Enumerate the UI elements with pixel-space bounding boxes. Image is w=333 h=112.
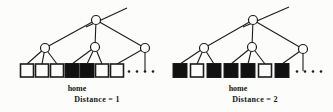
tree-edge [253,20,303,49]
leaf-square-empty [96,64,109,77]
leaf-square-replica [80,64,94,78]
leaf-square-empty [191,64,204,77]
leaf-square-empty [36,64,49,77]
distance-2-tree-shapes [173,7,322,78]
distance-1-tree-shapes [21,8,155,78]
leaf-square-replica [65,64,79,78]
tree-edge [45,20,96,48]
distance-2-tree: home Distance = 2 [173,7,322,104]
tree-edge [96,20,145,48]
ellipsis-dot [320,70,323,73]
root-node-circle [92,16,101,25]
tree-diagram-canvas: home Distance = 1 home Distance = 2 [0,0,333,112]
distance-1-tree: home Distance = 1 [21,8,155,104]
leaf-square-replica [241,64,255,78]
leaf-square-replica [173,64,187,78]
leaf-square-replica [207,64,221,78]
home-label: home [229,84,248,93]
internal-node-circle [248,43,257,52]
ellipsis-dot [296,70,299,73]
ellipsis-dot [144,70,147,73]
leaf-square-replica [224,64,238,78]
leaf-square-empty [111,64,124,77]
ellipsis-dot [152,70,155,73]
leaf-square-replica [275,64,289,78]
internal-node-circle [91,43,100,52]
internal-node-circle [200,44,209,53]
internal-node-circle [299,45,308,54]
leaf-square-empty [21,64,34,77]
ellipsis-dot [128,70,131,73]
ellipsis-dot [312,70,315,73]
ellipsis-dot [136,70,139,73]
caption-distance-1: Distance = 1 [74,95,120,104]
tree-edge [204,20,253,48]
tree-replication-figure: home Distance = 1 home Distance = 2 [0,0,333,112]
caption-distance-2: Distance = 2 [232,95,278,104]
root-node-circle [249,16,258,25]
internal-node-circle [141,44,150,53]
leaf-square-empty [51,64,64,77]
home-label: home [68,84,87,93]
leaf-square-empty [259,64,272,77]
ellipsis-dot [304,70,307,73]
internal-node-circle [41,44,50,53]
